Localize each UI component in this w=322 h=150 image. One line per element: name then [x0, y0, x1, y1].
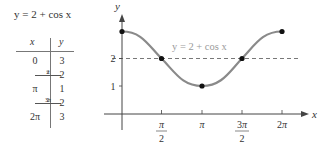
y-tick-label-2: 2 [111, 53, 116, 64]
data-point [199, 83, 204, 88]
cosine-chart: x y 2 1 π 2 π 3π 2 2π y = 2 + cos x [0, 0, 322, 150]
data-point [119, 29, 124, 34]
x-tick-label-pi-half: π 2 [156, 119, 167, 144]
cosine-curve [122, 32, 282, 87]
data-point [239, 56, 244, 61]
y-tick-label-1: 1 [111, 81, 116, 92]
x-axis-label: x [311, 108, 317, 120]
y-axis-arrow-icon [119, 14, 125, 22]
svg-text:2: 2 [240, 133, 245, 144]
x-tick-label-3pi-half: 3π 2 [235, 119, 249, 144]
x-tick-label-2pi: 2π [277, 119, 288, 130]
svg-text:2: 2 [159, 133, 164, 144]
svg-text:3π: 3π [237, 119, 248, 130]
x-axis-arrow-icon [301, 111, 309, 117]
curve-label: y = 2 + cos x [172, 41, 227, 52]
y-axis-label: y [114, 0, 120, 12]
data-point [279, 29, 284, 34]
data-point [159, 56, 164, 61]
svg-text:π: π [159, 119, 165, 130]
x-tick-label-pi: π [199, 119, 205, 130]
